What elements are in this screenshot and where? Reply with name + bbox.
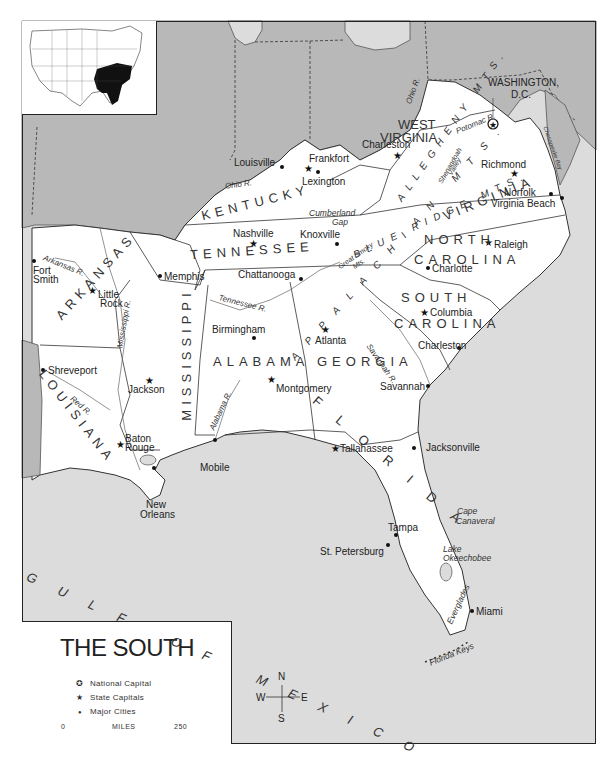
city-label-shreveport: Shreveport [48,366,97,376]
city-label-atlanta: Atlanta [315,336,346,346]
city-label-st-petersburg: St. Petersburg [320,547,384,557]
city-label-knoxville: Knoxville [300,230,340,240]
city-label-charleston-wv: Charleston [362,140,410,150]
city-label-columbia: Columbia [430,308,472,318]
city-label-louisville: Louisville [234,158,275,168]
feature-label-okeechobee: Okeechobee [443,554,491,563]
legend-item-state-capitals: ★State Capitals [74,693,144,702]
city-label-rouge: Rouge [125,443,154,453]
city-label-mobile: Mobile [200,463,229,473]
city-label-raleigh: Raleigh [494,240,528,250]
svg-text:★: ★ [304,163,313,174]
state-capital-icon: ★ [74,693,86,702]
city-label-nashville: Nashville [233,229,274,239]
city-label-rock: Rock [100,299,123,309]
city-label-norfolk: Norfolk [504,188,536,198]
scale-min: 0 [61,723,65,730]
lake-pontchartrain [140,455,156,465]
state-label-south: SOUTH [401,291,472,304]
city-label-birmingham: Birmingham [212,325,265,335]
state-label-mississippi: MISSISSIPPI [180,288,193,420]
national-capital-icon: ✪ [74,679,86,688]
inset-map-svg [22,21,157,115]
feature-label-canaveral: Canaveral [456,517,495,526]
state-label-north: NORTH [424,233,495,246]
inset-south-highlight [94,63,132,105]
svg-text:★: ★ [116,439,125,450]
city-label-tallahassee: Tallahassee [340,444,393,454]
city-label-smith: Smith [33,275,59,285]
city-label-miami: Miami [476,607,503,617]
city-label-memphis: Memphis [164,272,205,282]
city-label-frankfort: Frankfort [309,154,349,164]
svg-text:★: ★ [267,374,276,385]
feature-label-cape: Cape [457,507,477,516]
legend-item-major-cities: ●Major Cities [74,707,136,716]
state-label-georgia: GEORGIA [317,355,413,368]
legend: THE SOUTH ✪National Capital ★State Capit… [22,621,232,744]
scale-unit: MILES [112,723,136,730]
city-label-lexington: Lexington [302,177,345,187]
lake-okeechobee [440,563,452,581]
legend-item-national-capital: ✪National Capital [74,679,151,688]
compass-s: S [278,713,285,724]
city-label-jacksonville: Jacksonville [426,443,480,453]
city-label-charleston-sc: Charleston [418,341,466,351]
scale-max: 250 [174,723,187,730]
svg-text:★: ★ [331,443,340,454]
svg-text:★: ★ [393,150,402,161]
compass-w: W [256,692,265,703]
texas-land [22,340,42,478]
city-label-richmond: Richmond [481,160,526,170]
city-label-montgomery: Montgomery [276,384,332,394]
city-label-jackson: Jackson [128,385,165,395]
city-label-dc: D.C. [511,90,531,100]
state-label-south-carolina: CAROLINA [394,317,500,330]
city-label-tampa: Tampa [388,523,418,533]
city-label-washington: WASHINGTON, [488,78,559,88]
feature-label-gap: Gap [332,218,348,227]
city-label-chattanooga: Chattanooga [238,270,295,280]
city-label-virginia-beach: Virginia Beach [491,199,555,209]
major-city-icon: ● [74,709,86,715]
city-label-charlotte: Charlotte [432,264,473,274]
inset-usa-map [22,21,157,115]
city-label-savannah: Savannah [380,382,425,392]
city-label-orleans: Orleans [140,510,175,520]
